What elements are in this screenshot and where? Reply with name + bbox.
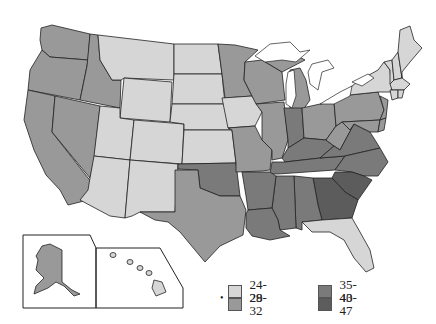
legend-label-4: 43-47 [340, 291, 362, 317]
state-WY [120, 78, 172, 122]
hawaii-inset-frame [96, 248, 183, 308]
legend-item-4: 43-47 [318, 291, 361, 317]
state-HI [152, 280, 166, 296]
state-ND [174, 44, 222, 74]
legend-marker: • [220, 292, 224, 303]
us-map [0, 0, 436, 324]
legend-item-2: 29-32 [228, 291, 271, 317]
legend-swatch-2 [228, 298, 242, 311]
state-CO [130, 120, 184, 164]
state-NM [125, 160, 178, 218]
legend-label-2: 29-32 [250, 291, 272, 317]
legend-swatch-4 [318, 298, 332, 311]
state-ME [398, 26, 422, 78]
state-KS [182, 130, 236, 164]
lake-huron [308, 60, 334, 90]
state-HI-island [110, 253, 116, 258]
state-AR [242, 172, 276, 210]
state-HI-island [146, 271, 152, 276]
state-HI-island [127, 260, 133, 265]
state-MT [98, 35, 174, 80]
state-AK [34, 244, 80, 296]
state-HI-island [137, 266, 143, 271]
state-FL [302, 218, 374, 272]
state-CT [390, 90, 398, 100]
state-RI [398, 90, 404, 98]
state-SD [172, 74, 225, 104]
